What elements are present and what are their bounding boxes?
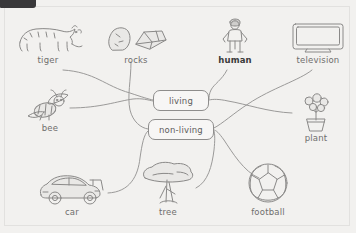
- bee-icon: [18, 86, 82, 122]
- category-box-non-living[interactable]: non-living: [148, 119, 214, 140]
- item-label-human: human: [195, 55, 275, 65]
- item-label-tiger: tiger: [8, 55, 88, 65]
- item-label-bee: bee: [14, 123, 86, 133]
- plant-icon: [289, 92, 343, 132]
- item-football[interactable]: football: [232, 162, 304, 217]
- item-car[interactable]: car: [30, 168, 114, 217]
- human-icon: [199, 16, 271, 54]
- item-human[interactable]: human: [195, 16, 275, 65]
- item-label-football: football: [232, 207, 304, 217]
- item-label-television: television: [280, 55, 356, 65]
- item-tiger[interactable]: tiger: [8, 18, 88, 65]
- item-label-plant: plant: [285, 133, 347, 143]
- item-label-car: car: [30, 207, 114, 217]
- item-plant[interactable]: plant: [285, 92, 347, 143]
- item-label-tree: tree: [130, 207, 206, 217]
- tree-icon: [133, 158, 203, 206]
- item-bee[interactable]: bee: [14, 86, 86, 133]
- television-icon: [285, 18, 351, 54]
- category-label-non-living: non-living: [159, 125, 203, 135]
- item-label-rocks: rocks: [96, 55, 176, 65]
- tiger-icon: [12, 18, 84, 54]
- category-label-living: living: [169, 96, 193, 106]
- worksheet-canvas: tiger rocks human television: [0, 0, 356, 233]
- item-rocks[interactable]: rocks: [96, 18, 176, 65]
- item-tree[interactable]: tree: [130, 158, 206, 217]
- item-television[interactable]: television: [280, 18, 356, 65]
- car-icon: [33, 168, 111, 206]
- rocks-icon: [100, 18, 172, 54]
- football-icon: [237, 162, 299, 206]
- category-box-living[interactable]: living: [153, 90, 209, 111]
